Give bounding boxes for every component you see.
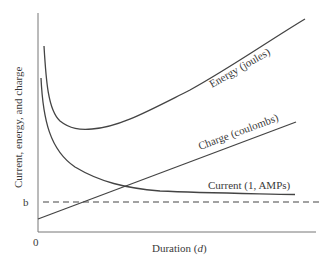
y-axis-title: Current, energy, and charge (12, 67, 24, 188)
zero-tick-label: 0 (33, 236, 39, 248)
x-axis-title: Duration (d) (152, 242, 207, 255)
strength-duration-chart: Energy (joules) Charge (coulombs) Curren… (0, 0, 336, 265)
charge-label: Charge (coulombs) (196, 111, 280, 153)
energy-curve (44, 19, 305, 129)
current-label: Current (1, AMPs) (208, 179, 291, 192)
energy-label: Energy (joules) (207, 45, 273, 90)
b-tick-label: b (23, 196, 29, 208)
charge-line (38, 122, 296, 219)
